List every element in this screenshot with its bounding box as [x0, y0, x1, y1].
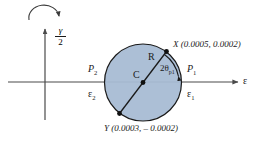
two-denominator: 2: [55, 38, 66, 47]
center-point-marker: [141, 80, 146, 85]
clockwise-rotation-arrow: [29, 5, 59, 20]
gamma-numerator: γ: [55, 26, 66, 35]
mohr-circle-figure: γ 2 ε X (0.0005, 0.0002) Y (0.0003, – 0.…: [0, 0, 256, 146]
center-label: C: [133, 70, 140, 80]
vertical-axis-label: γ 2: [55, 26, 66, 48]
point-x-marker: [164, 49, 169, 54]
p2-subscript: 2: [94, 69, 97, 76]
p1-subscript: 1: [193, 69, 196, 76]
horizontal-axis-label: ε: [243, 76, 247, 86]
angle-label: 2θp1: [160, 64, 175, 76]
angle-value: 2θ: [160, 63, 169, 73]
point-y-label: Y (0.0003, – 0.0002): [104, 124, 178, 133]
radius-label: R: [148, 52, 155, 62]
eps1-subscript: 1: [191, 94, 194, 101]
principal-axis-p1-label: P1: [187, 64, 196, 77]
angle-subscript: p1: [169, 69, 175, 75]
eps2-subscript: 2: [92, 94, 95, 101]
principal-axis-p2-label: P2: [88, 64, 97, 77]
principal-strain-eps1-label: ε1: [187, 89, 195, 102]
principal-strain-eps2-label: ε2: [88, 89, 96, 102]
point-y-marker: [117, 111, 122, 116]
point-x-label: X (0.0005, 0.0002): [173, 40, 241, 49]
